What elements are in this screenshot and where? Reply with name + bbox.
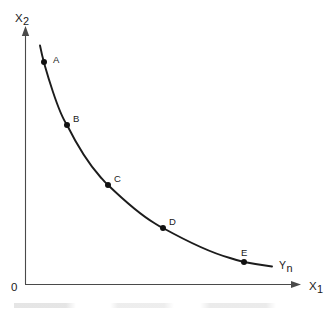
curve-label-yn: Y n [279,259,293,274]
y-axis-arrowhead [22,26,29,36]
point-label-b: B [73,113,79,124]
origin-label: 0 [11,281,17,293]
x-axis-label-base: X [309,280,317,292]
point-label-e: E [241,247,247,258]
y-axis-label-subscript: 2 [23,15,29,27]
isoquant-curve-yn [40,46,272,267]
page-text-bleed [14,303,320,308]
y-axis [22,26,29,284]
data-point-c [105,182,111,188]
isoquant-figure: A B C D E Y n X 2 X 1 0 [0,0,334,310]
isoquant-chart-svg: A B C D E Y n X 2 X 1 0 [0,0,334,310]
y-axis-label-base: X [15,12,23,24]
data-point-d [160,225,166,231]
data-points [41,59,247,265]
point-label-d: D [169,216,176,227]
x-axis-label-subscript: 1 [317,283,323,295]
data-point-b [64,122,70,128]
data-point-e [241,259,247,265]
point-label-c: C [114,173,121,184]
x-axis-arrowhead [291,281,301,288]
curve-label-subscript: n [287,262,293,274]
data-point-a [41,59,47,65]
x-axis-label: X 1 [309,280,323,295]
point-label-a: A [53,54,60,65]
x-axis [25,281,301,288]
y-axis-label: X 2 [15,12,29,27]
curve-label-base: Y [279,259,286,271]
